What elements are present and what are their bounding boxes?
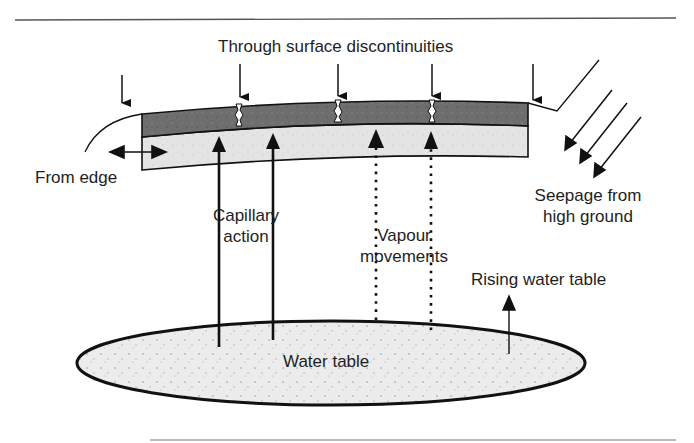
ground-slope-right: [528, 60, 599, 111]
label-vapour-line1: Vapour: [348, 226, 460, 245]
label-from-edge: From edge: [35, 168, 117, 187]
seepage-arrows: [565, 90, 641, 177]
label-surface-discontinuities: Through surface discontinuities: [218, 37, 488, 56]
label-capillary-line2: action: [196, 227, 296, 246]
label-water-table: Water table: [283, 352, 369, 371]
label-rising-water-table: Rising water table: [471, 270, 606, 289]
top-rule: [15, 18, 676, 20]
surface-infiltration-arrows: [122, 64, 533, 103]
label-vapour-line2: movements: [348, 247, 460, 266]
moisture-sources-diagram: Through surface discontinuities From edg…: [0, 0, 694, 443]
label-capillary-line1: Capillary: [196, 206, 296, 225]
label-seepage-line1: Seepage from: [523, 186, 653, 205]
label-seepage-line2: high ground: [523, 207, 653, 226]
ground-surface-left: [85, 114, 142, 152]
edge-double-arrow: [110, 146, 166, 158]
